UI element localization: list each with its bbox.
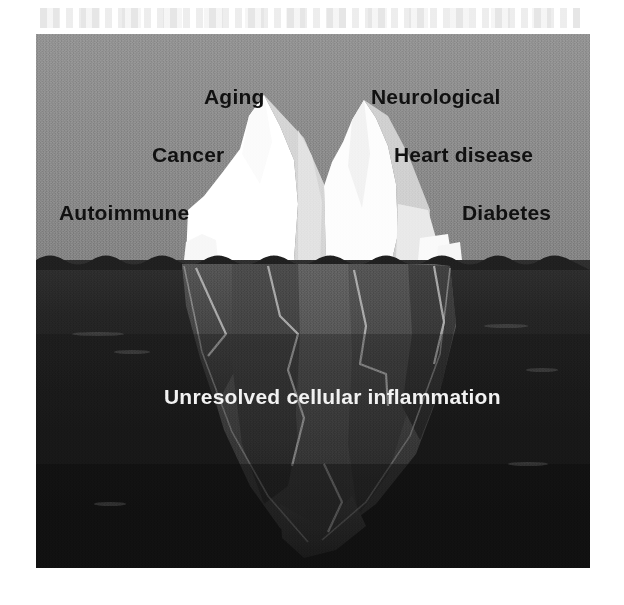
- label-cancer: Cancer: [152, 144, 224, 165]
- particle-streak: [94, 502, 126, 506]
- label-unresolved-cellular-inflammation: Unresolved cellular inflammation: [164, 386, 501, 407]
- iceberg-illustration: Aging Neurological Cancer Heart disease …: [36, 34, 590, 568]
- particle-streak: [526, 368, 558, 372]
- particle-streak: [508, 462, 548, 466]
- particle-streak: [114, 350, 150, 354]
- iceberg-scene-svg: [36, 34, 590, 568]
- label-neurological: Neurological: [371, 86, 501, 107]
- label-autoimmune: Autoimmune: [59, 202, 189, 223]
- label-aging: Aging: [204, 86, 264, 107]
- scanner-ghost-artifact: [40, 8, 580, 28]
- label-heart-disease: Heart disease: [394, 144, 533, 165]
- particle-streak: [72, 332, 124, 336]
- label-diabetes: Diabetes: [462, 202, 551, 223]
- deep-floor-veil: [36, 464, 590, 568]
- particle-streak: [484, 324, 528, 328]
